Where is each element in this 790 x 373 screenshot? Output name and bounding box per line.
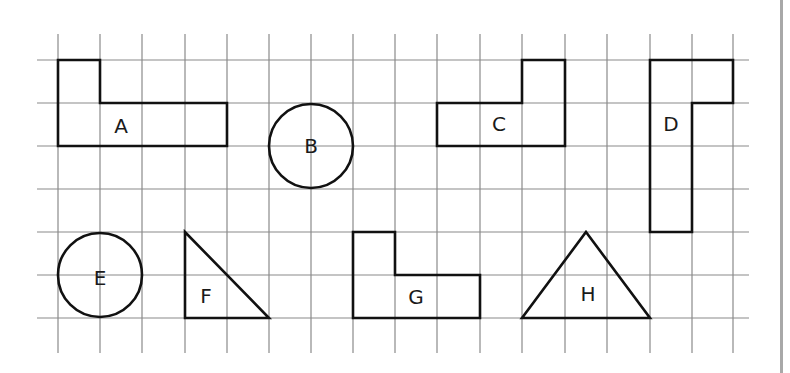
grid: [37, 34, 749, 353]
shape-grid-diagram: ABCDEFGH: [0, 0, 790, 373]
shape-label-b: B: [304, 134, 318, 158]
shape-label-f: F: [200, 284, 212, 308]
shape-label-h: H: [580, 282, 595, 306]
shape-label-c: C: [492, 112, 506, 136]
shape-label-a: A: [114, 114, 128, 138]
shape-label-d: D: [663, 112, 678, 136]
shape-label-g: G: [408, 285, 424, 309]
page-right-border: [780, 0, 783, 373]
shape-label-e: E: [94, 266, 107, 290]
